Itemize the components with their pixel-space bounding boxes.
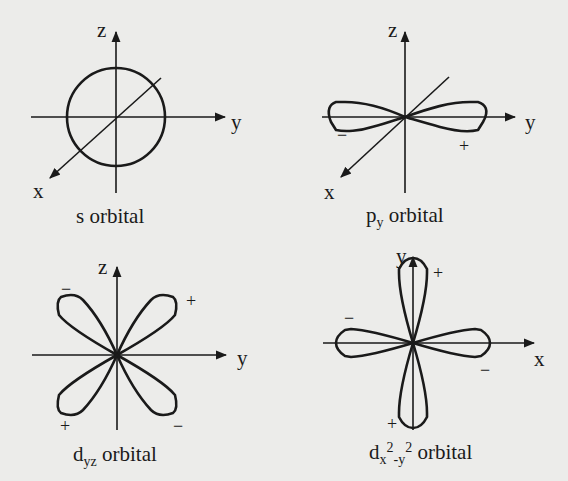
sign-plus-top: +	[433, 263, 443, 283]
lobe-lower-left	[58, 355, 117, 415]
lobe-lower-right	[117, 355, 176, 415]
lobe-upper-right	[117, 295, 176, 355]
x-axis-label: x	[324, 180, 335, 204]
sign-plus-upper-right: +	[186, 291, 196, 311]
orbital-diagram: z y x s orbital z y x − + py orbital z y…	[0, 0, 568, 481]
y-axis-label: y	[237, 346, 248, 370]
caption-dyz-orbital: dyz orbital	[73, 442, 157, 469]
sign-minus: −	[337, 125, 347, 145]
x-axis	[341, 77, 449, 177]
sign-minus-lower-right: −	[173, 416, 183, 436]
z-axis-label: z	[98, 255, 107, 279]
x-axis	[50, 78, 161, 178]
sign-minus-upper-left: −	[61, 279, 71, 299]
sign-minus-left: −	[344, 308, 354, 328]
z-axis-label: z	[97, 18, 106, 42]
caption-py-orbital: py orbital	[366, 203, 444, 230]
caption-dx2-y2-orbital: dx2-y2 orbital	[369, 440, 472, 467]
panel-s-orbital: z y x s orbital	[31, 18, 242, 228]
z-axis-label: z	[388, 18, 397, 42]
x-axis-label: x	[534, 347, 545, 371]
sign-minus-right: −	[480, 360, 490, 380]
y-axis-label: y	[231, 110, 242, 134]
sign-plus: +	[459, 136, 469, 156]
caption-s-orbital: s orbital	[76, 204, 144, 228]
sign-plus-bottom: +	[387, 414, 397, 434]
x-axis-label: x	[33, 179, 44, 203]
panel-dx2-y2-orbital: y x + − − + dx2-y2 orbital	[323, 244, 545, 467]
y-axis-label: y	[525, 110, 536, 134]
panel-py-orbital: z y x − + py orbital	[322, 18, 536, 230]
panel-dyz-orbital: z y − + + − dyz orbital	[32, 255, 248, 469]
lobe-upper-left	[58, 295, 117, 355]
y-axis-label: y	[396, 244, 407, 268]
sign-plus-lower-left: +	[60, 416, 70, 436]
